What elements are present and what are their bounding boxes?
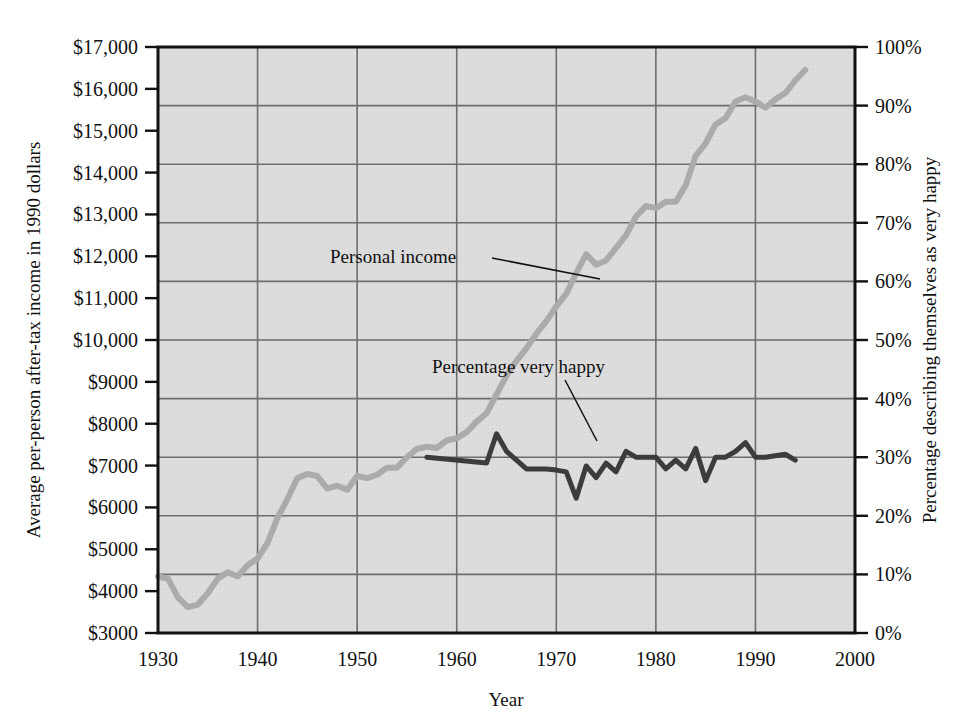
tick-label-right: 10% <box>875 563 912 585</box>
tick-label-left: $4000 <box>88 580 138 602</box>
tick-label-bottom: 1930 <box>138 648 178 670</box>
x-axis-title: Year <box>488 689 524 710</box>
tick-label-left: $16,000 <box>73 78 138 100</box>
tick-label-left: $14,000 <box>73 162 138 184</box>
tick-label-left: $17,000 <box>73 36 138 58</box>
tick-label-right: 50% <box>875 329 912 351</box>
tick-label-bottom: 1970 <box>536 648 576 670</box>
tick-label-left: $10,000 <box>73 329 138 351</box>
chart-container: $3000$4000$5000$6000$7000$8000$9000$10,0… <box>0 0 966 722</box>
tick-label-right: 20% <box>875 505 912 527</box>
tick-label-left: $11,000 <box>74 287 138 309</box>
tick-label-left: $7000 <box>88 455 138 477</box>
tick-label-bottom: 1960 <box>437 648 477 670</box>
tick-label-bottom: 1980 <box>636 648 676 670</box>
tick-label-left: $5000 <box>88 538 138 560</box>
tick-label-left: $12,000 <box>73 245 138 267</box>
tick-label-right: 40% <box>875 388 912 410</box>
tick-label-bottom: 1990 <box>735 648 775 670</box>
y-axis-right-title: Percentage describing themselves as very… <box>919 156 940 523</box>
tick-label-left: $6000 <box>88 496 138 518</box>
tick-label-bottom: 1940 <box>238 648 278 670</box>
tick-label-left: $3000 <box>88 622 138 644</box>
annotation-label: Percentage very happy <box>432 356 606 377</box>
tick-label-left: $9000 <box>88 371 138 393</box>
y-axis-left-title: Average per-person after-tax income in 1… <box>23 142 44 539</box>
tick-label-bottom: 1950 <box>337 648 377 670</box>
tick-label-right: 60% <box>875 270 912 292</box>
income-vs-happiness-chart: $3000$4000$5000$6000$7000$8000$9000$10,0… <box>0 0 966 722</box>
tick-label-left: $13,000 <box>73 203 138 225</box>
tick-label-right: 0% <box>875 622 902 644</box>
tick-label-left: $15,000 <box>73 120 138 142</box>
tick-label-right: 30% <box>875 446 912 468</box>
tick-label-right: 70% <box>875 212 912 234</box>
annotation-label: Personal income <box>330 246 456 267</box>
tick-label-left: $8000 <box>88 413 138 435</box>
tick-label-right: 80% <box>875 153 912 175</box>
tick-label-right: 90% <box>875 95 912 117</box>
tick-label-bottom: 2000 <box>835 648 875 670</box>
tick-label-right: 100% <box>875 36 922 58</box>
